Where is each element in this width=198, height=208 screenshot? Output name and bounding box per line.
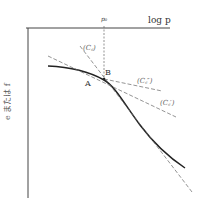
tangent-c1-label: (C꜀) xyxy=(83,45,96,52)
p0-label: p₀ xyxy=(101,16,107,22)
y-axis-label: e または f xyxy=(4,83,12,120)
tangent-c2-label: (C꜀″) xyxy=(137,78,152,85)
point-B-marker xyxy=(103,78,106,81)
x-axis-label: log p xyxy=(148,16,171,25)
point-b-label: B xyxy=(105,69,111,77)
tangent-c1 xyxy=(80,46,192,192)
point-a-label: A xyxy=(85,80,91,88)
tangent-c3-label: (C꜀′) xyxy=(160,100,174,107)
